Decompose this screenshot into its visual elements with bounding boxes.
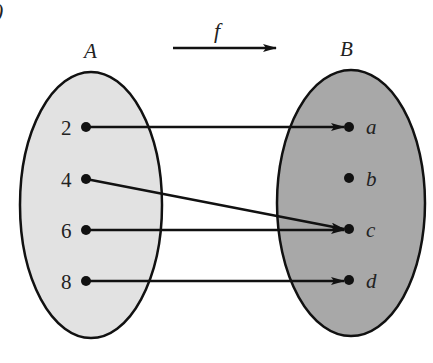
element-c-dot [344,224,354,234]
element-6-dot [81,225,91,235]
function-label: f [214,18,223,43]
element-8-dot [81,276,91,286]
element-4-label: 4 [61,168,72,192]
set-b-label: B [340,37,353,61]
set-a-label: A [82,39,97,63]
element-4-dot [81,174,91,184]
element-d-dot [344,275,354,285]
element-a-label: a [366,115,377,139]
corner-mark: ) [0,0,3,23]
element-6-label: 6 [61,219,72,243]
element-8-label: 8 [61,270,72,294]
element-a-dot [344,122,354,132]
element-c-label: c [366,218,376,242]
function-mapping-diagram: ) f A B 2 4 6 8 a b c d [0,0,433,363]
element-2-dot [81,122,91,132]
element-b-dot [344,173,354,183]
element-d-label: d [366,269,377,293]
set-a-ellipse [20,72,162,338]
element-b-label: b [366,167,377,191]
set-b-ellipse [277,70,425,336]
element-2-label: 2 [61,116,72,140]
